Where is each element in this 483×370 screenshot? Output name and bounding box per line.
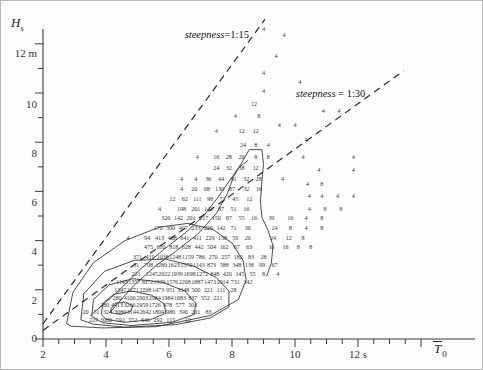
data-cell: 8	[300, 243, 322, 250]
data-cell: 12	[177, 316, 199, 323]
data-cell: 8	[257, 153, 279, 160]
data-cell: 4	[328, 107, 350, 114]
data-cell: 4	[265, 52, 287, 59]
data-cell: 8	[311, 224, 333, 231]
data-cell: 4	[224, 112, 246, 119]
data-cell: 4	[149, 205, 171, 212]
data-cell: 83	[197, 308, 219, 315]
data-cell: 4	[342, 166, 364, 173]
data-cell: 28	[223, 286, 245, 293]
data-cell: 16	[248, 185, 270, 192]
data-cell: 4	[292, 153, 314, 160]
data-cell: 8	[330, 205, 352, 212]
wave-scatter-diagram: Hs 12 m 10 8 6 4 2 0 2 4 6 8 10 12 s T0 …	[0, 0, 483, 370]
data-cell: 4	[284, 121, 306, 128]
data-cell: 4	[267, 270, 289, 277]
data-cell: 12	[243, 100, 265, 107]
data-cell: 28	[253, 253, 275, 260]
data-cell: 36	[237, 224, 259, 231]
data-cell: 8	[292, 234, 314, 241]
data-cell: 4	[271, 175, 293, 182]
data-cell: 4	[289, 78, 311, 85]
data-cell: 4	[273, 31, 295, 38]
data-cell: 67	[264, 261, 286, 268]
data-cell: 28	[248, 175, 270, 182]
data-cell-layer: 4444124841212248441628208824323812443644…	[1, 1, 483, 370]
data-cell: 4	[342, 153, 364, 160]
data-cell: 4	[308, 166, 330, 173]
data-cell: 8	[248, 112, 270, 119]
data-cell: 4	[342, 192, 364, 199]
data-cell: 4	[295, 136, 317, 143]
data-cell: 20	[237, 234, 259, 241]
data-cell: 4	[253, 25, 275, 32]
data-cell: 4	[253, 69, 275, 76]
data-cell: 8	[311, 180, 333, 187]
data-cell: 63	[238, 243, 260, 250]
data-cell: 4	[253, 87, 275, 94]
data-cell: 12	[245, 127, 267, 134]
data-cell: 4	[205, 127, 227, 134]
data-cell: 8	[311, 214, 333, 221]
data-cell: 16	[235, 205, 257, 212]
data-cell: 342	[237, 278, 259, 285]
data-cell: 12	[245, 164, 267, 171]
data-cell: 221	[207, 294, 229, 301]
data-cell: 12	[238, 195, 260, 202]
data-cell: 4	[257, 141, 279, 148]
data-cell: 503	[182, 301, 204, 308]
